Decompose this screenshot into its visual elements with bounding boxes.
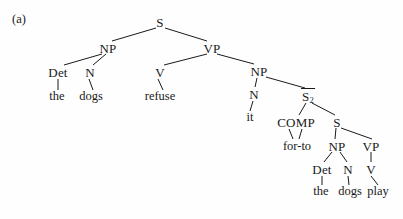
leaf-refuse: refuse	[145, 90, 176, 103]
node-np1: NP	[99, 42, 116, 55]
leaf-for-to: for-to	[283, 140, 311, 153]
syntax-tree-figure: (a) SNPVPDetNVNPNS2COMPSNPVPDetNVthedogs…	[0, 0, 403, 219]
leaf-the2: the	[313, 185, 328, 198]
leaf-the1: the	[49, 90, 64, 103]
node-det1: Det	[48, 66, 67, 79]
sbar-node-glyph: S2	[302, 89, 314, 103]
overbar-mark	[301, 88, 315, 89]
leaf-it: it	[247, 111, 254, 124]
tree-edge	[340, 152, 347, 162]
tree-edge	[299, 103, 306, 115]
node-v2: V	[366, 163, 376, 176]
tree-edge	[312, 103, 335, 115]
node-n2: N	[249, 88, 259, 101]
node-vp1: VP	[203, 42, 220, 55]
node-v1: V	[155, 66, 165, 79]
node-comp: COMP	[277, 116, 315, 129]
node-det2: Det	[312, 163, 331, 176]
leaf-dogs2: dogs	[338, 185, 362, 198]
node-n1: N	[85, 66, 95, 79]
node-np3: NP	[328, 140, 345, 153]
tree-edge	[289, 129, 293, 139]
tree-edge	[164, 54, 207, 65]
tree-edge	[112, 28, 156, 41]
node-s2: S	[333, 116, 340, 129]
node-subscript: 2	[309, 95, 313, 105]
node-n3: N	[343, 163, 353, 176]
tree-edge	[324, 152, 332, 162]
tree-edge	[266, 77, 305, 88]
tree-edge	[217, 54, 254, 64]
tree-edge	[165, 28, 207, 41]
tree-edge	[299, 129, 302, 139]
leaf-dogs1: dogs	[79, 90, 103, 103]
node-np2: NP	[250, 65, 267, 78]
tree-edge	[341, 128, 372, 139]
leaf-play: play	[367, 185, 389, 198]
node-sbar2: S2	[302, 89, 314, 103]
node-vp2: VP	[362, 140, 379, 153]
node-s: S	[156, 16, 163, 29]
tree-edge	[335, 128, 336, 139]
tree-edge	[64, 54, 102, 65]
